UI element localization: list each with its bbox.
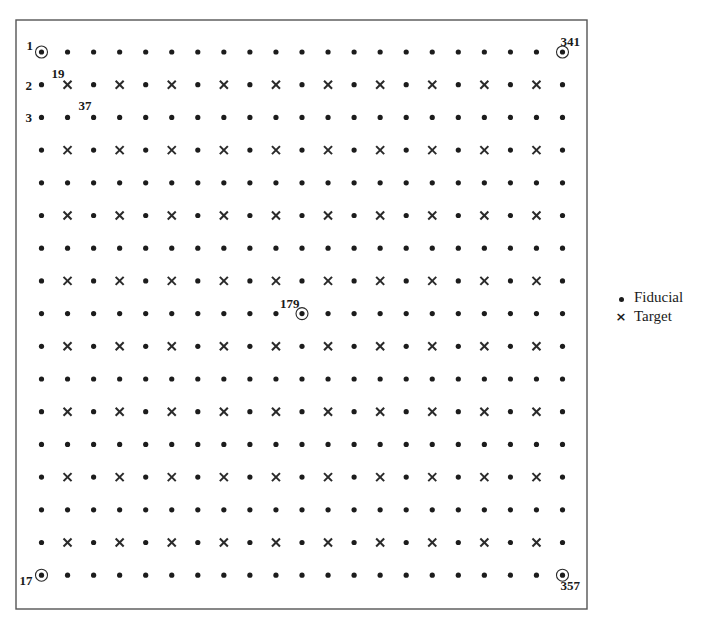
fiducial-dot-icon xyxy=(560,278,565,283)
target-cross-icon xyxy=(168,212,176,220)
fiducial-dot-icon xyxy=(299,409,304,414)
fiducial-dot-icon xyxy=(482,442,487,447)
fiducial-dot-icon xyxy=(404,376,409,381)
fiducial-dot-icon xyxy=(65,573,70,578)
fiducial-dot-icon xyxy=(247,115,252,120)
fiducial-dot-icon xyxy=(456,213,461,218)
fiducial-dot-icon xyxy=(404,507,409,512)
fiducial-dot-icon xyxy=(91,311,96,316)
point-number-label: 37 xyxy=(79,98,93,113)
fiducial-dot-icon xyxy=(221,115,226,120)
fiducial-dot-icon xyxy=(560,376,565,381)
target-cross-icon xyxy=(428,539,436,547)
fiducial-dot-icon xyxy=(273,246,278,251)
fiducial-dot-icon xyxy=(482,246,487,251)
point-grid-diagram: 123171937179341357 xyxy=(0,0,718,632)
fiducial-dot-icon xyxy=(169,573,174,578)
fiducial-dot-icon xyxy=(273,507,278,512)
point-number-label: 1 xyxy=(27,38,34,53)
target-cross-icon xyxy=(480,81,488,89)
fiducial-dot-icon xyxy=(299,246,304,251)
fiducial-dot-icon xyxy=(117,573,122,578)
fiducial-dot-icon xyxy=(91,442,96,447)
fiducial-dot-icon xyxy=(39,180,44,185)
fiducial-dot-icon xyxy=(91,475,96,480)
target-cross-icon xyxy=(428,473,436,481)
fiducial-dot-icon xyxy=(91,148,96,153)
fiducial-dot-icon xyxy=(39,246,44,251)
fiducial-dot-icon xyxy=(456,507,461,512)
fiducial-dot-icon xyxy=(456,148,461,153)
target-cross-icon xyxy=(168,473,176,481)
fiducial-dot-icon xyxy=(299,442,304,447)
fiducial-dot-icon xyxy=(430,311,435,316)
target-cross-icon xyxy=(116,408,124,416)
fiducial-dot-icon xyxy=(352,344,357,349)
fiducial-dot-icon xyxy=(247,311,252,316)
fiducial-dot-icon xyxy=(614,288,628,307)
point-number-label: 179 xyxy=(280,296,300,311)
target-cross-icon xyxy=(376,473,384,481)
target-cross-icon xyxy=(272,473,280,481)
fiducial-dot-icon xyxy=(143,344,148,349)
fiducial-dot-icon xyxy=(404,246,409,251)
fiducial-dot-icon xyxy=(91,246,96,251)
fiducial-dot-icon xyxy=(273,376,278,381)
fiducial-dot-icon xyxy=(560,442,565,447)
fiducial-dot-icon xyxy=(221,311,226,316)
fiducial-dot-icon xyxy=(325,507,330,512)
fiducial-dot-icon xyxy=(482,115,487,120)
fiducial-dot-icon xyxy=(352,409,357,414)
fiducial-dot-icon xyxy=(65,442,70,447)
fiducial-dot-icon xyxy=(169,180,174,185)
fiducial-dot-icon xyxy=(299,82,304,87)
fiducial-dot-icon xyxy=(299,475,304,480)
fiducial-dot-icon xyxy=(560,213,565,218)
target-cross-icon xyxy=(272,212,280,220)
fiducial-dot-icon xyxy=(117,442,122,447)
target-cross-icon xyxy=(532,342,540,350)
target-cross-icon xyxy=(428,81,436,89)
fiducial-dot-icon xyxy=(65,49,70,54)
fiducial-dot-icon xyxy=(143,115,148,120)
fiducial-dot-icon xyxy=(273,49,278,54)
fiducial-dot-icon xyxy=(299,573,304,578)
fiducial-dot-icon xyxy=(91,540,96,545)
legend-label-target: Target xyxy=(634,307,672,326)
fiducial-dot-icon xyxy=(508,180,513,185)
fiducial-dot-icon xyxy=(65,507,70,512)
target-cross-icon xyxy=(64,342,72,350)
fiducial-dot-icon xyxy=(456,311,461,316)
target-cross-icon xyxy=(480,212,488,220)
point-number-label: 19 xyxy=(52,66,66,81)
fiducial-dot-icon xyxy=(143,475,148,480)
fiducial-dot-icon xyxy=(247,246,252,251)
target-cross-icon xyxy=(220,539,228,547)
fiducial-dot-icon xyxy=(143,507,148,512)
fiducial-dot-icon xyxy=(65,246,70,251)
target-cross-icon xyxy=(168,342,176,350)
target-cross-icon xyxy=(324,473,332,481)
point-number-label: 3 xyxy=(26,110,33,125)
fiducial-dot-icon xyxy=(169,311,174,316)
fiducial-dot-icon xyxy=(508,376,513,381)
fiducial-dot-icon xyxy=(195,540,200,545)
fiducial-dot-icon xyxy=(482,507,487,512)
fiducial-dot-icon xyxy=(560,475,565,480)
fiducial-dot-icon xyxy=(456,376,461,381)
target-cross-icon xyxy=(480,539,488,547)
fiducial-dot-icon xyxy=(299,278,304,283)
fiducial-dot-icon xyxy=(560,573,565,578)
fiducial-dot-icon xyxy=(352,213,357,218)
fiducial-dot-icon xyxy=(508,475,513,480)
target-cross-icon xyxy=(64,539,72,547)
target-cross-icon xyxy=(220,342,228,350)
target-cross-icon xyxy=(64,81,72,89)
target-cross-icon xyxy=(428,212,436,220)
fiducial-dot-icon xyxy=(378,573,383,578)
fiducial-dot-icon xyxy=(221,376,226,381)
fiducial-dot-icon xyxy=(143,442,148,447)
fiducial-dot-icon xyxy=(378,442,383,447)
target-cross-icon xyxy=(272,81,280,89)
fiducial-dot-icon xyxy=(456,409,461,414)
